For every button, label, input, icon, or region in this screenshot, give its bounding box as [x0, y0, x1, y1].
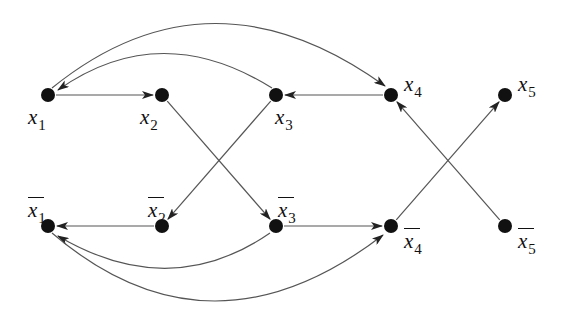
variable-subscript: 1 [38, 210, 46, 226]
label-text: x2 [140, 107, 158, 128]
node-x3 [269, 88, 283, 102]
node-x4 [384, 88, 398, 102]
label-text: x5 [518, 231, 536, 252]
label-text: x5 [518, 74, 536, 95]
label-text: x1 [28, 107, 46, 128]
variable-subscript: 3 [288, 210, 296, 226]
variable-name: x [404, 72, 413, 96]
node-label-x4: x4 [404, 74, 422, 95]
node-x2 [155, 88, 169, 102]
negation-bar [518, 228, 534, 229]
label-text: x4 [404, 74, 422, 95]
label-text: x3 [278, 200, 296, 221]
variable-subscript: 4 [414, 241, 422, 257]
edges-layer [52, 23, 500, 301]
variable-name: x [28, 105, 37, 129]
node-label-nx1: x1 [28, 200, 46, 221]
variable-subscript: 2 [158, 210, 166, 226]
variable-name: x [404, 229, 413, 253]
edge-nx1-to-nx4 [52, 233, 383, 301]
node-label-nx2: x2 [148, 200, 166, 221]
node-nx5 [498, 219, 512, 233]
node-label-x3: x3 [275, 107, 293, 128]
node-label-nx5: x5 [518, 231, 536, 252]
variable-subscript: 3 [285, 117, 293, 133]
graph-diagram [0, 0, 561, 313]
label-text: x1 [28, 200, 46, 221]
variable-name: x [518, 229, 527, 253]
node-x1 [41, 88, 55, 102]
variable-name: x [28, 198, 37, 222]
variable-name: x [148, 198, 157, 222]
negation-bar [148, 197, 164, 198]
node-nx4 [384, 219, 398, 233]
label-text: x3 [275, 107, 293, 128]
node-label-x2: x2 [140, 107, 158, 128]
variable-subscript: 4 [414, 84, 422, 100]
variable-subscript: 2 [150, 117, 158, 133]
variable-name: x [275, 105, 284, 129]
variable-subscript: 5 [528, 84, 536, 100]
edge-nx3-to-nx1 [58, 233, 270, 268]
negation-bar [404, 228, 420, 229]
variable-name: x [518, 72, 527, 96]
node-label-nx3: x3 [278, 200, 296, 221]
node-label-nx4: x4 [404, 231, 422, 252]
node-x5 [498, 88, 512, 102]
label-text: x2 [148, 200, 166, 221]
negation-bar [278, 197, 294, 198]
variable-subscript: 5 [528, 241, 536, 257]
negation-bar [28, 197, 44, 198]
variable-name: x [278, 198, 287, 222]
edge-x3-to-x1 [58, 53, 272, 90]
node-label-x1: x1 [28, 107, 46, 128]
edge-x1-to-x4 [52, 23, 385, 88]
variable-subscript: 1 [38, 117, 46, 133]
label-text: x4 [404, 231, 422, 252]
variable-name: x [140, 105, 149, 129]
node-label-x5: x5 [518, 74, 536, 95]
